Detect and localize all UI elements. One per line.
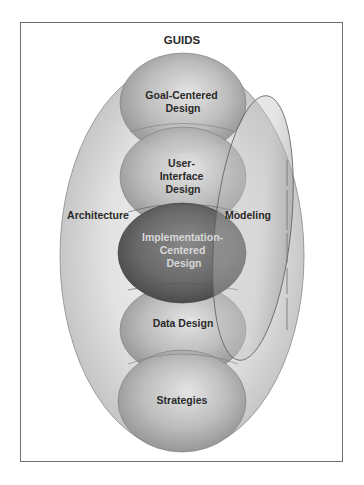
outer-left-label: Architecture (67, 209, 129, 221)
diagram-title: GUIDS (164, 34, 201, 46)
guids-diagram: GUIDS Architecture Modeling Goal-Centere… (0, 0, 364, 485)
node-data-label: Data Design (153, 317, 214, 329)
node-strategies-label: Strategies (157, 394, 208, 406)
outer-right-label: Modeling (225, 209, 271, 221)
